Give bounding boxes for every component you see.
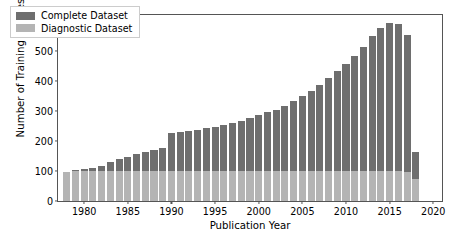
bar-segment-complete (72, 170, 79, 172)
bar-column (255, 115, 262, 201)
x-tick-mark (215, 201, 216, 204)
bar-segment-complete (369, 36, 376, 171)
bar-segment-complete (334, 71, 341, 171)
bar-segment-diagnostic (89, 171, 96, 201)
bar-segment-diagnostic (168, 171, 175, 201)
bar-column (150, 150, 157, 201)
chart-figure: Number of Training Articles (k) Publicat… (0, 0, 470, 239)
bar-segment-complete (404, 35, 411, 172)
bar-segment-complete (386, 23, 393, 172)
bar-segment-complete (177, 132, 184, 171)
x-tick-mark (345, 201, 346, 204)
bar-column (220, 125, 227, 202)
bar-column (168, 133, 175, 201)
bar-segment-complete (159, 148, 166, 171)
bar-column (404, 35, 411, 201)
bar-segment-diagnostic (342, 171, 349, 201)
bar-segment-diagnostic (150, 171, 157, 201)
bar-segment-complete (395, 24, 402, 171)
bar-segment-diagnostic (395, 171, 402, 201)
bar-segment-diagnostic (281, 171, 288, 201)
bar-segment-diagnostic (72, 171, 79, 201)
bar-segment-complete (229, 123, 236, 171)
bar-segment-diagnostic (220, 171, 227, 201)
bar-segment-diagnostic (203, 171, 210, 201)
bars-container (58, 15, 442, 201)
bar-column (116, 159, 123, 201)
bar-segment-complete (220, 125, 227, 172)
bar-column (142, 152, 149, 202)
bar-column (133, 154, 140, 201)
bar-segment-complete (89, 168, 96, 171)
bar-segment-complete (238, 121, 245, 171)
y-tick-mark (55, 200, 58, 201)
chart-legend: Complete DatasetDiagnostic Dataset (10, 6, 140, 38)
bar-segment-complete (98, 166, 105, 171)
bar-segment-complete (377, 28, 384, 171)
bar-column (229, 123, 236, 201)
plot-area: 0100200300400500600198019851990199520002… (57, 14, 443, 202)
bar-segment-complete (203, 128, 210, 171)
bar-segment-diagnostic (377, 171, 384, 201)
bar-segment-diagnostic (81, 171, 88, 201)
bar-segment-diagnostic (412, 179, 419, 202)
bar-segment-diagnostic (63, 172, 70, 201)
bar-column (81, 169, 88, 201)
bar-segment-complete (299, 96, 306, 171)
x-tick-label: 2000 (247, 206, 271, 217)
bar-segment-diagnostic (142, 171, 149, 201)
bar-column (281, 106, 288, 201)
y-tick-mark (55, 50, 58, 51)
bar-segment-complete (308, 91, 315, 171)
bar-column (360, 47, 367, 202)
bar-segment-diagnostic (369, 171, 376, 201)
bar-column (212, 127, 219, 201)
bar-column (264, 112, 271, 201)
x-tick-label: 1990 (159, 206, 183, 217)
bar-column (325, 78, 332, 201)
bar-column (63, 172, 70, 201)
legend-label: Complete Dataset (41, 11, 128, 21)
bar-segment-diagnostic (116, 171, 123, 201)
bar-segment-diagnostic (177, 171, 184, 201)
bar-segment-complete (325, 78, 332, 171)
bar-segment-diagnostic (308, 171, 315, 201)
bar-segment-complete (107, 162, 114, 171)
bar-column (299, 96, 306, 201)
y-tick-mark (55, 170, 58, 171)
x-tick-mark (302, 201, 303, 204)
bar-segment-complete (133, 154, 140, 171)
x-tick-label: 1980 (72, 206, 96, 217)
bar-column (316, 85, 323, 201)
legend-item: Complete Dataset (16, 11, 132, 21)
bar-segment-complete (255, 115, 262, 171)
bar-column (159, 148, 166, 201)
bar-segment-diagnostic (185, 171, 192, 201)
bar-segment-diagnostic (159, 171, 166, 201)
bar-segment-complete (246, 118, 253, 171)
x-tick-mark (258, 201, 259, 204)
bar-segment-complete (116, 159, 123, 171)
bar-segment-diagnostic (360, 171, 367, 201)
bar-segment-complete (81, 169, 88, 171)
bar-segment-complete (412, 152, 419, 179)
bar-column (395, 24, 402, 201)
bar-column (377, 28, 384, 201)
bar-column (308, 91, 315, 201)
bar-column (238, 121, 245, 201)
bar-column (412, 152, 419, 202)
bar-segment-diagnostic (273, 171, 280, 201)
bar-segment-diagnostic (290, 171, 297, 201)
x-tick-mark (84, 201, 85, 204)
bar-column (107, 162, 114, 201)
y-tick-mark (55, 110, 58, 111)
bar-segment-complete (185, 131, 192, 171)
bar-column (351, 56, 358, 202)
bar-column (369, 36, 376, 201)
x-tick-mark (127, 201, 128, 204)
bar-column (290, 101, 297, 201)
bar-segment-diagnostic (386, 171, 393, 201)
bar-segment-diagnostic (255, 171, 262, 201)
bar-segment-complete (281, 106, 288, 171)
bar-segment-diagnostic (107, 171, 114, 201)
